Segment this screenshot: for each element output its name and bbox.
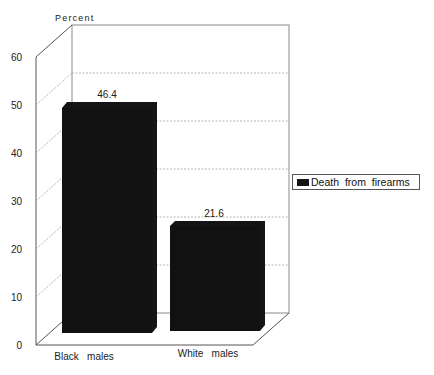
bar-white-males: 21.6 bbox=[170, 208, 265, 331]
x-label-black-males: Black males bbox=[54, 351, 113, 362]
legend-label: Death from firearms bbox=[311, 176, 410, 188]
legend: Death from firearms bbox=[292, 174, 420, 190]
y-tick-30: 30 bbox=[11, 196, 23, 207]
y-tick-50: 50 bbox=[11, 100, 23, 111]
y-tick-60: 60 bbox=[11, 52, 23, 63]
legend-swatch bbox=[297, 179, 309, 186]
data-label-white-males: 21.6 bbox=[204, 208, 224, 219]
bar-black-males: 46.4 bbox=[62, 89, 157, 333]
y-tick-10: 10 bbox=[11, 292, 23, 303]
x-label-white-males: White males bbox=[178, 348, 239, 359]
y-tick-0: 0 bbox=[16, 340, 22, 351]
data-label-black-males: 46.4 bbox=[97, 89, 117, 100]
x-axis: Black males White males bbox=[54, 348, 238, 362]
y-tick-40: 40 bbox=[11, 148, 23, 159]
y-tick-20: 20 bbox=[11, 244, 23, 255]
y-axis-label: Percent bbox=[55, 13, 94, 23]
